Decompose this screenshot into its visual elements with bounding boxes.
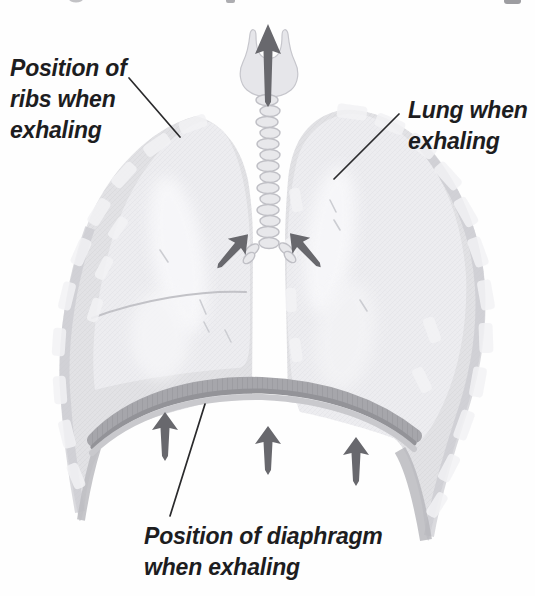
cropped-text-remnant (69, 0, 521, 4)
diaphragm-up-arrow-left (152, 412, 178, 461)
lungs-exhalation-diagram: Position of ribs when exhaling Lung when… (0, 0, 535, 596)
ribs-label: Position of ribs when exhaling (10, 53, 127, 146)
diaphragm-up-arrow-right (343, 437, 369, 486)
lung-label: Lung when exhaling (408, 95, 528, 157)
diaphragm-leader-line (170, 404, 205, 516)
diaphragm-label: Position of diaphragm when exhaling (144, 521, 383, 583)
ribs-leader-line (129, 78, 180, 137)
diaphragm-up-arrow-middle (255, 426, 281, 475)
